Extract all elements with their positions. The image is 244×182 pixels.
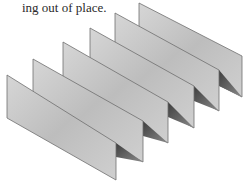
- folded-panels-illustration: [0, 0, 244, 182]
